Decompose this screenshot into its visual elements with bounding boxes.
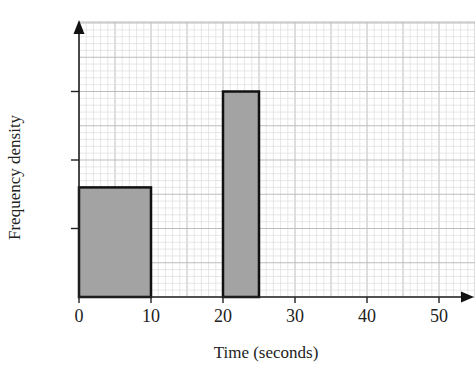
histogram-bar (223, 92, 259, 298)
x-tick-label: 30 (286, 306, 304, 327)
histogram-bar (79, 187, 151, 297)
x-tick-label: 40 (358, 306, 376, 327)
x-tick-label: 10 (142, 306, 160, 327)
x-tick-label: 50 (430, 306, 448, 327)
x-tick-label: 0 (75, 306, 84, 327)
x-axis-label: Time (seconds) (0, 343, 475, 363)
histogram-chart (0, 0, 475, 366)
y-axis-label: Frequency density (5, 115, 25, 240)
x-tick-label: 20 (214, 306, 232, 327)
